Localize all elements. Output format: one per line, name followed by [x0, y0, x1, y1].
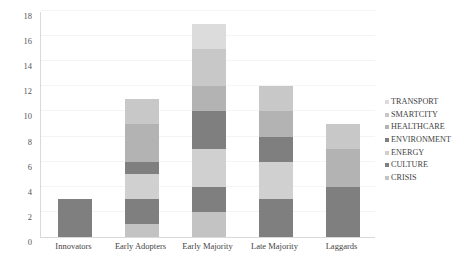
x-tick-label: Late Majority [251, 242, 298, 251]
legend-label: HEALTHCARE [391, 123, 445, 131]
bar-segment[interactable] [326, 187, 360, 237]
legend-item[interactable]: TRANSPORT [385, 96, 467, 109]
square-marker-icon [385, 113, 389, 117]
legend-label: TRANSPORT [391, 98, 438, 106]
legend-item[interactable]: SMARTCITY [385, 109, 467, 122]
stacked-bar-chart: 024681012141618 InnovatorsEarly Adopters… [0, 0, 467, 273]
x-axis: InnovatorsEarly AdoptersEarly MajorityLa… [40, 242, 375, 262]
bar-stack[interactable] [326, 124, 360, 237]
legend: TRANSPORTSMARTCITYHEALTHCAREENVIRONMENTE… [385, 96, 467, 184]
square-marker-icon [385, 100, 389, 104]
legend-item[interactable]: ENERGY [385, 146, 467, 159]
x-tick-label: Innovators [55, 242, 91, 251]
bar-segment[interactable] [192, 187, 226, 212]
legend-label: SMARTCITY [391, 111, 438, 119]
bar-segment[interactable] [192, 149, 226, 187]
legend-item[interactable]: HEALTHCARE [385, 121, 467, 134]
square-marker-icon [385, 163, 389, 167]
bar-group[interactable] [41, 11, 108, 237]
bar-stack[interactable] [192, 24, 226, 237]
legend-item[interactable]: ENVIRONMENT [385, 134, 467, 147]
bar-segment[interactable] [125, 99, 159, 124]
legend-label: ENERGY [391, 149, 424, 157]
legend-label: CULTURE [391, 161, 428, 169]
bar-segment[interactable] [192, 24, 226, 49]
bar-segment[interactable] [192, 212, 226, 237]
square-marker-icon [385, 176, 389, 180]
bar-group[interactable] [108, 11, 175, 237]
x-tick-label: Laggards [326, 242, 358, 251]
legend-label: ENVIRONMENT [391, 136, 451, 144]
bar-segment[interactable] [125, 124, 159, 162]
bar-stack[interactable] [259, 86, 293, 237]
bar-segment[interactable] [259, 162, 293, 200]
bar-segment[interactable] [326, 149, 360, 187]
bar-stack[interactable] [58, 199, 92, 237]
legend-label: CRISIS [391, 174, 416, 182]
bar-segment[interactable] [326, 124, 360, 149]
bar-segment[interactable] [259, 137, 293, 162]
bar-segment[interactable] [125, 162, 159, 175]
bar-segment[interactable] [125, 224, 159, 237]
bar-group[interactable] [309, 11, 376, 237]
bar-segment[interactable] [125, 174, 159, 199]
legend-item[interactable]: CRISIS [385, 172, 467, 185]
legend-item[interactable]: CULTURE [385, 159, 467, 172]
square-marker-icon [385, 125, 389, 129]
bar-segment[interactable] [192, 49, 226, 87]
bar-segment[interactable] [192, 111, 226, 149]
bar-group[interactable] [175, 11, 242, 237]
square-marker-icon [385, 151, 389, 155]
bar-segment[interactable] [192, 86, 226, 111]
bar-segment[interactable] [58, 199, 92, 237]
x-tick-label: Early Majority [182, 242, 232, 251]
bar-group[interactable] [242, 11, 309, 237]
bars-layer [41, 12, 375, 237]
bar-stack[interactable] [125, 99, 159, 237]
bar-segment[interactable] [259, 111, 293, 136]
bar-segment[interactable] [125, 199, 159, 224]
square-marker-icon [385, 138, 389, 142]
plot-area [40, 12, 375, 238]
y-axis: 024681012141618 [0, 12, 36, 238]
bar-segment[interactable] [259, 199, 293, 237]
bar-segment[interactable] [259, 86, 293, 111]
x-tick-label: Early Adopters [115, 242, 166, 251]
